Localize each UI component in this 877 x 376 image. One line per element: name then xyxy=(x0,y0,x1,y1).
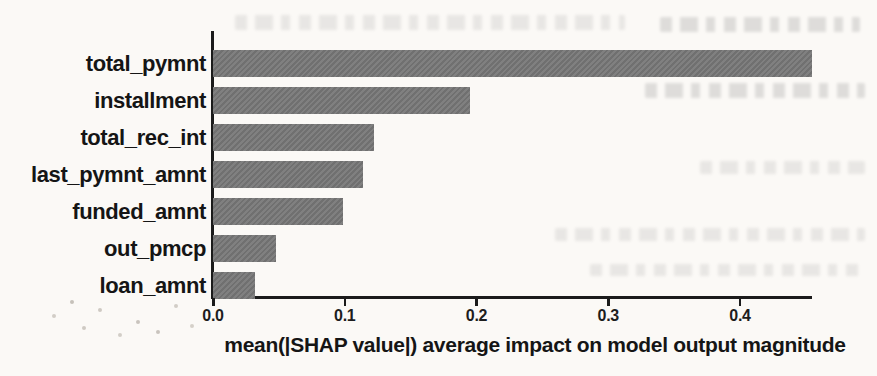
scan-noise-speckles xyxy=(70,300,74,304)
bar-out_pmcp xyxy=(213,235,276,262)
print-bleed-artifact xyxy=(645,83,865,98)
x-tick-label-0.4: 0.4 xyxy=(729,307,750,325)
y-tick-label-total_rec_int: total_rec_int xyxy=(0,125,206,151)
x-tick-label-0.0: 0.0 xyxy=(202,307,223,325)
y-tick-label-funded_amnt: funded_amnt xyxy=(0,199,206,225)
y-tick-label-last_pymnt_amnt: last_pymnt_amnt xyxy=(0,162,206,188)
x-tick-label-0.3: 0.3 xyxy=(598,307,619,325)
print-bleed-artifact xyxy=(660,17,860,32)
x-tick-mark xyxy=(739,298,742,306)
y-tick-label-total_pymnt: total_pymnt xyxy=(0,51,206,77)
x-axis-label: mean(|SHAP value|) average impact on mod… xyxy=(215,333,855,357)
x-tick-mark xyxy=(475,298,478,306)
y-tick-label-loan_amnt: loan_amnt xyxy=(0,273,206,299)
print-bleed-artifact xyxy=(700,161,865,174)
y-tick-label-out_pmcp: out_pmcp xyxy=(0,236,206,262)
bar-installment xyxy=(213,87,470,114)
print-bleed-artifact xyxy=(555,228,865,241)
bar-funded_amnt xyxy=(213,198,343,225)
x-tick-label-0.2: 0.2 xyxy=(466,307,487,325)
bar-loan_amnt xyxy=(213,272,255,299)
y-tick-label-installment: installment xyxy=(0,88,206,114)
bar-total_rec_int xyxy=(213,124,374,151)
x-tick-mark xyxy=(344,298,347,306)
print-bleed-artifact xyxy=(590,264,860,276)
print-bleed-artifact xyxy=(235,15,625,30)
x-axis-spine xyxy=(211,296,812,299)
bar-last_pymnt_amnt xyxy=(213,161,363,188)
x-tick-mark xyxy=(212,298,215,306)
x-tick-label-0.1: 0.1 xyxy=(334,307,355,325)
x-tick-mark xyxy=(607,298,610,306)
scanned-paper-page: total_pymntinstallmenttotal_rec_intlast_… xyxy=(0,0,877,376)
bar-total_pymnt xyxy=(213,50,812,77)
